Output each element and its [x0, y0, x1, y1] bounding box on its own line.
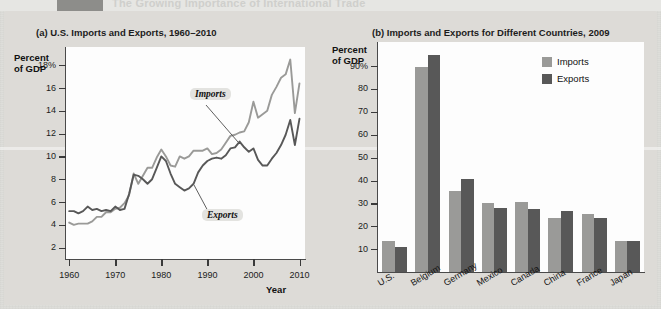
panel-a: (a) U.S. Imports and Exports, 1960–2010 …	[0, 0, 330, 309]
bar-canada-exports	[528, 209, 541, 272]
panel-b-y-tick	[371, 203, 378, 204]
panel-b-y-tick-label: 40	[332, 175, 368, 185]
panel-b-y-tick-label: 90%	[332, 61, 368, 71]
panel-b: (b) Imports and Exports for Different Co…	[330, 0, 661, 309]
legend-item-imports: Imports	[542, 56, 589, 67]
panel-b-y-axis-title-line1: Percent	[332, 44, 367, 55]
panel-b-y-tick	[371, 181, 378, 182]
legend-label: Imports	[557, 56, 589, 67]
bar-mexico-imports	[482, 203, 495, 272]
panel-b-title: (b) Imports and Exports for Different Co…	[372, 27, 610, 38]
panel-a-imports-callout: Imports	[190, 88, 231, 100]
bar-france-imports	[582, 214, 595, 272]
bar-belgium-exports	[428, 55, 441, 272]
panel-a-exports-callout: Exports	[202, 209, 243, 221]
panel-b-y-tick-label: 10	[332, 244, 368, 254]
panel-b-y-tick	[371, 66, 378, 67]
bar-france-exports	[594, 218, 607, 272]
bar-germany-imports	[449, 191, 462, 272]
panel-b-y-tick	[371, 135, 378, 136]
panel-b-y-tick	[371, 89, 378, 90]
legend-swatch-exports	[542, 74, 552, 84]
bar-china-exports	[561, 211, 574, 272]
legend-item-exports: Exports	[542, 73, 589, 84]
bar-us-exports	[395, 247, 408, 272]
panel-b-y-tick	[371, 226, 378, 227]
bar-belgium-imports	[415, 67, 428, 272]
panel-b-y-tick-label: 20	[332, 221, 368, 231]
bar-canada-imports	[515, 202, 528, 272]
panel-b-y-tick-label: 70	[332, 106, 368, 116]
bar-us-imports	[382, 241, 395, 272]
panel-b-y-tick-label: 50	[332, 152, 368, 162]
panel-b-y-tick	[371, 158, 378, 159]
legend-swatch-imports	[542, 57, 552, 67]
panel-b-y-tick-label: 30	[332, 198, 368, 208]
bar-germany-exports	[461, 179, 474, 272]
panel-b-y-tick-label: 80	[332, 83, 368, 93]
panel-b-y-tick	[371, 112, 378, 113]
panel-a-leader-lines	[0, 0, 330, 309]
bar-mexico-exports	[494, 208, 507, 272]
panel-b-y-tick	[371, 249, 378, 250]
legend-label: Exports	[557, 73, 589, 84]
panel-b-y-tick-label: 60	[332, 129, 368, 139]
bar-china-imports	[548, 218, 561, 272]
